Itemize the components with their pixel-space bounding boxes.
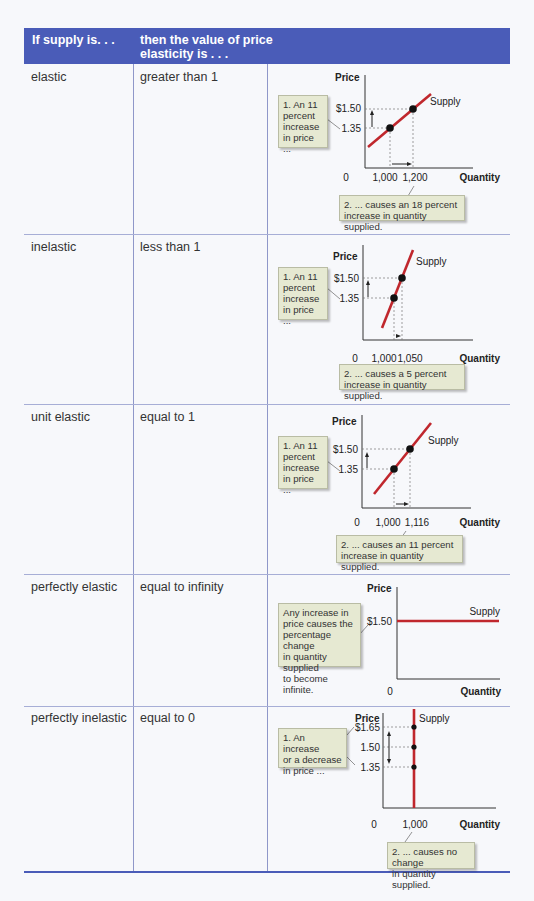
price-change-callout: Any increase in price causes the percent… [278,603,361,667]
curve-label: Supply [430,96,461,107]
supply-curve [374,423,431,494]
point-mid-price [411,744,416,749]
point-low-price [390,294,398,302]
price-axis-label: Price [367,583,392,594]
quantity-change-callout: 2. ... causes an 18 percent increase in … [339,195,465,221]
quantity-tick: 1,050 [397,353,422,364]
row-elasticity-value: equal to 0 [140,711,195,725]
row-supply-type: perfectly elastic [31,580,117,594]
row-elasticity-value: less than 1 [140,240,200,254]
price-tick: $1.65 [355,722,380,733]
price-tick: 1.50 [361,742,381,753]
callout-pointer [347,727,354,735]
quantity-axis-label: Quantity [459,353,500,364]
price-tick: 1.35 [342,123,362,134]
callout-line: percent [283,110,323,121]
callout-line: in price ... [283,304,323,326]
row-elasticity-value: greater than 1 [140,70,218,84]
quantity-tick: 1,000 [371,353,396,364]
arrow-head-icon [396,334,401,338]
callout-line: in price ... [283,473,323,495]
row-supply-type: elastic [31,70,66,84]
callout-line: percent [283,282,323,293]
quantity-tick: 1,116 [405,517,430,528]
quantity-axis-label: Quantity [459,819,500,830]
point-low-price [390,465,398,473]
curve-label: Supply [428,435,459,446]
callout-pointer [347,757,355,765]
price-tick: 1.35 [361,762,381,773]
callout-line: increase [283,293,323,304]
quantity-tick: 1,200 [402,172,427,183]
origin-label: 0 [387,686,393,697]
callout-pointer [327,288,340,299]
callout-line: 2. ... causes an 18 percent [344,199,460,210]
callout-line: 2. ... causes no change [392,846,470,868]
price-tick: $1.50 [367,616,392,627]
callout-line: 2. ... causes a 5 percent [344,368,460,379]
quantity-change-callout: 2. ... causes a 5 percent increase in qu… [339,364,465,390]
callout-pointer [405,832,412,842]
header-supply: If supply is. . . [32,33,115,47]
callout-line: increase [283,462,323,473]
callout-line: in quantity supplied [283,651,356,673]
arrow-head-icon [387,731,391,736]
arrow-head-icon [370,110,374,115]
row-supply-type: perfectly inelastic [31,711,127,725]
arrow-head-icon [404,502,409,506]
price-change-callout: 1. An 11 percent increase in price ... [278,95,328,148]
callout-line: 2. ... causes an 11 percent [341,539,458,550]
origin-label: 0 [354,517,360,528]
callout-line: in quantity supplied. [392,868,470,890]
quantity-axis-label: Quantity [460,686,501,697]
arrow-head-icon [387,759,391,764]
price-tick: $1.50 [333,444,358,455]
header-elasticity-line1: then the value of price [140,33,273,47]
price-axis-label: Price [335,72,360,83]
callout-line: price causes the [283,618,356,629]
callout-line: 1. An 11 [283,99,323,110]
row-elasticity-value: equal to infinity [140,580,223,594]
quantity-tick: 1,000 [375,517,400,528]
callout-line: increase in quantity supplied. [341,550,458,572]
point-low-price [386,124,394,132]
curve-label: Supply [419,713,450,724]
origin-label: 0 [343,172,349,183]
quantity-change-callout: 2. ... causes an 11 percent increase in … [336,535,463,563]
point-high-price [411,724,416,729]
arrow-head-icon [366,280,370,285]
header-elasticity-line2: elasticity is . . . [140,47,228,61]
price-change-callout: 1. An 11 percent increase in price ... [278,436,328,489]
callout-line: increase in quantity supplied. [344,210,460,232]
callout-line: increase in quantity supplied. [344,379,460,401]
callout-line: 1. An 11 [283,271,323,282]
supply-curve [368,94,431,147]
callout-line: 1. An 11 [283,440,323,451]
column-divider [133,64,134,872]
supply-curve [382,250,413,328]
price-axis-label: Price [333,251,358,262]
point-low-price [411,764,416,769]
curve-label: Supply [469,606,500,617]
quantity-axis-label: Quantity [459,517,500,528]
row-supply-type: unit elastic [31,410,90,424]
arrow-head-icon [365,452,369,457]
point-high-price [398,274,406,282]
price-change-callout: 1. An 11 percent increase in price ... [278,267,328,320]
price-tick: 1.35 [339,464,359,475]
origin-label: 0 [371,819,377,830]
point-high-price [406,445,414,453]
quantity-change-callout: 2. ... causes no change in quantity supp… [387,842,475,869]
callout-line: in price ... [283,132,323,154]
callout-line: percentage change [283,629,356,651]
quantity-axis-label: Quantity [459,172,500,183]
callout-line: or a decrease [283,754,342,765]
price-axis-label: Price [332,416,357,427]
price-tick: 1.35 [340,293,360,304]
callout-line: in price ... [283,765,342,776]
row-supply-type: inelastic [31,240,76,254]
arrow-head-icon [407,162,412,166]
callout-line: 1. An increase [283,732,342,754]
callout-line: increase [283,121,323,132]
price-tick: $1.50 [334,273,359,284]
